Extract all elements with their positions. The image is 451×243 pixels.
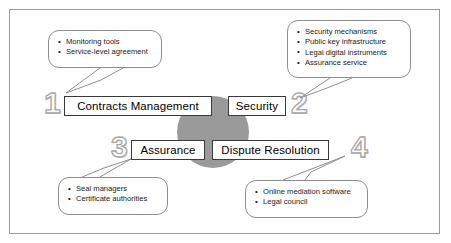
callout-bubble-1: Monitoring tools Service-level agreement [48, 30, 162, 68]
callout-item: Monitoring tools [58, 37, 153, 47]
callout-list-1: Monitoring tools Service-level agreement [58, 37, 153, 58]
callout-item: Certificate authorities [68, 194, 159, 204]
callout-list-4: Online mediation software Legal council [255, 187, 359, 208]
callout-item: Legal digital instruments [297, 48, 402, 58]
callout-bubble-2: Security mechanisms Public key infrastru… [287, 20, 411, 78]
callout-tail-3 [82, 159, 131, 177]
callout-list-3: Seal managers Certificate authorities [68, 184, 159, 205]
callout-item: Security mechanisms [297, 27, 402, 37]
callout-tail-1 [66, 68, 123, 93]
callout-tail-4 [283, 156, 345, 180]
callout-item: Public key infrastructure [297, 37, 402, 47]
callout-item: Service-level agreement [58, 47, 153, 57]
callout-bubble-4: Online mediation software Legal council [245, 180, 368, 218]
diagram-canvas: Contracts Management Security Assurance … [0, 0, 451, 243]
callout-bubble-3: Seal managers Certificate authorities [58, 177, 168, 215]
callout-item: Seal managers [68, 184, 159, 194]
callout-item: Legal council [255, 197, 359, 207]
callout-item: Assurance service [297, 58, 402, 68]
callout-item: Online mediation software [255, 187, 359, 197]
callout-list-2: Security mechanisms Public key infrastru… [297, 27, 402, 69]
callout-tail-2 [300, 78, 352, 98]
